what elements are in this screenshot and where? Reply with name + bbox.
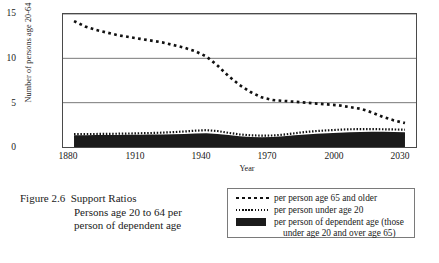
- figure-number: Figure 2.6: [20, 192, 65, 204]
- gridlines: [63, 14, 416, 103]
- x-tick-label-1880: 1880: [46, 151, 90, 162]
- y-tick-label-15: 15: [0, 8, 16, 18]
- x-tick-label-1910: 1910: [113, 151, 157, 162]
- legend-label-under-age-20: per person under age 20: [274, 205, 414, 216]
- fine-dotted-line-icon: [236, 205, 270, 216]
- caption-subtitle-line-2: person of dependent age: [74, 219, 225, 233]
- chart-legend: per person age 65 and older per person u…: [227, 188, 415, 238]
- caption-subtitle-line-1: Persons age 20 to 64 per: [74, 206, 225, 220]
- figure-caption: Figure 2.6 Support Ratios Persons age 20…: [20, 192, 225, 233]
- x-tick-label-1940: 1940: [179, 151, 223, 162]
- y-tick-label-5: 5: [0, 98, 16, 108]
- legend-label-age-65-and-older: per person age 65 and older: [274, 193, 414, 204]
- filled-black-block-icon: [236, 217, 270, 228]
- caption-subtitle: Persons age 20 to 64 per person of depen…: [74, 206, 225, 233]
- legend-label-dependent-age-line-2: under age 20 and over age 65): [283, 228, 414, 239]
- caption-heading: Figure 2.6 Support Ratios: [20, 192, 225, 206]
- legend-item-under-age-20: per person under age 20: [236, 205, 414, 216]
- x-tick-label-2000: 2000: [312, 151, 356, 162]
- coarse-dotted-line-icon: [236, 193, 270, 204]
- series-age-65-and-older-line: [74, 21, 405, 123]
- y-axis-label: Number of persons age 20-64: [24, 0, 33, 128]
- x-tick-label-1970: 1970: [245, 151, 289, 162]
- x-axis-label: Year: [222, 164, 272, 173]
- plot-canvas: [63, 14, 416, 147]
- x-tick-label-2030: 2030: [378, 151, 422, 162]
- figure-title: Support Ratios: [71, 192, 137, 204]
- legend-label-dependent-age: per person of dependent age (those under…: [274, 217, 414, 240]
- legend-item-age-65-and-older: per person age 65 and older: [236, 193, 414, 204]
- y-tick-label-0: 0: [0, 142, 16, 152]
- legend-label-dependent-age-line-1: per person of dependent age (those: [274, 217, 404, 227]
- plot-area: [62, 13, 417, 148]
- legend-item-dependent-age: per person of dependent age (those under…: [236, 217, 414, 240]
- y-tick-label-10: 10: [0, 53, 16, 63]
